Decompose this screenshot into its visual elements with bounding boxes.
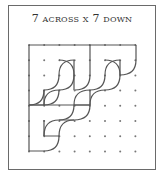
grid-dot [104, 120, 106, 122]
knot-path [29, 45, 136, 151]
dot-grid-diagram [0, 0, 163, 178]
grid-dot [74, 135, 76, 137]
grid-dot [119, 150, 121, 152]
grid-dot [43, 59, 45, 61]
grid-dot [134, 135, 136, 137]
grid-dot [119, 90, 121, 92]
grid-dot [104, 135, 106, 137]
grid-dot [89, 135, 91, 137]
grid-dot [119, 105, 121, 107]
grid-dot [104, 150, 106, 152]
grid-dot [134, 74, 136, 76]
grid-dot [134, 120, 136, 122]
grid-dot [89, 150, 91, 152]
grid-dot [104, 105, 106, 107]
grid-dot [134, 150, 136, 152]
grid-dot [89, 120, 91, 122]
grid-dot [43, 74, 45, 76]
grid-dot [119, 120, 121, 122]
grid-dot [58, 150, 60, 152]
grid-dot [119, 135, 121, 137]
grid-dot [134, 90, 136, 92]
grid-dot [74, 150, 76, 152]
grid-dot [134, 105, 136, 107]
